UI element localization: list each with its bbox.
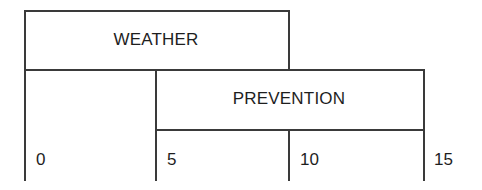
tick-label-5: 5	[167, 150, 176, 170]
prevention-label: PREVENTION	[155, 69, 423, 129]
tick-line-10	[288, 129, 290, 181]
prevention-box-right-border	[423, 69, 425, 181]
weather-label: WEATHER	[24, 10, 288, 69]
tick-label-15: 15	[434, 150, 453, 170]
tick-line-0	[24, 10, 26, 181]
tick-label-0: 0	[36, 150, 45, 170]
weather-box-right-border	[288, 10, 290, 70]
prevention-box-bottom-border	[155, 129, 424, 131]
tick-label-10: 10	[300, 150, 319, 170]
